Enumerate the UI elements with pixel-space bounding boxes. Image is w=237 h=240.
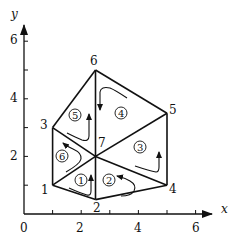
- y-tick-label: 4: [10, 91, 18, 105]
- mesh-edge-2-4: [96, 185, 168, 199]
- node-label-5: 5: [169, 103, 177, 117]
- svg-text:1: 1: [78, 175, 84, 186]
- element-label-6: 6: [56, 150, 68, 162]
- element-label-4: 4: [115, 107, 127, 119]
- y-tick-label: 6: [10, 33, 18, 47]
- svg-text:2: 2: [106, 175, 112, 186]
- element-label-2: 2: [103, 174, 115, 186]
- x-tick-label: 6: [192, 221, 200, 235]
- node-label-4: 4: [169, 182, 177, 196]
- x-axis-label: x: [221, 202, 228, 216]
- circulation-arrow-3: [135, 152, 159, 172]
- x-tick-label: 2: [76, 221, 84, 235]
- svg-text:5: 5: [72, 110, 78, 121]
- node-label-2: 2: [93, 201, 101, 215]
- svg-text:6: 6: [59, 151, 65, 162]
- node-label-1: 1: [41, 183, 49, 197]
- y-axis-label: y: [10, 7, 18, 21]
- finite-element-mesh-diagram: x y 0 2 4 6 2 4 6 1 2 3 4 5 6 7 1 2 3 4 …: [0, 0, 237, 240]
- circulation-arrow-4: [100, 88, 127, 111]
- y-tick-label: 2: [10, 149, 18, 163]
- mesh-edge-5-7: [96, 113, 168, 156]
- x-tick-label: 0: [20, 221, 28, 235]
- element-label-1: 1: [75, 174, 87, 186]
- mesh-edge-1-2: [53, 185, 96, 199]
- node-label-6: 6: [90, 54, 98, 68]
- element-label-3: 3: [134, 141, 146, 153]
- x-tick-label: 4: [134, 221, 142, 235]
- svg-text:3: 3: [137, 142, 143, 153]
- svg-text:4: 4: [118, 108, 124, 119]
- node-label-7: 7: [98, 136, 106, 150]
- node-label-3: 3: [40, 118, 48, 132]
- element-label-5: 5: [69, 109, 81, 121]
- mesh-edge-5-6: [96, 70, 168, 113]
